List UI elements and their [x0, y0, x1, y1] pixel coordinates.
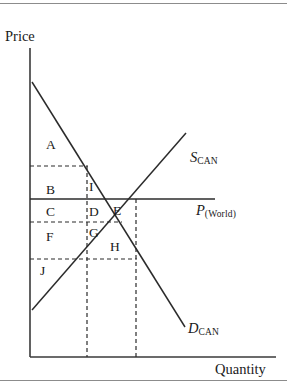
demand-subscript: CAN [198, 327, 219, 337]
x-axis-label: Quantity [215, 362, 266, 377]
world-price-label: P(World) [196, 203, 236, 218]
supply-curve-label: SCAN [190, 150, 218, 165]
region-g-label: G [89, 226, 99, 240]
region-a-label: A [46, 138, 56, 152]
region-e-label: E [113, 204, 121, 218]
region-i-label: I [89, 180, 94, 194]
world-price-symbol: P [196, 202, 205, 218]
world-price-subscript: (World) [205, 209, 236, 219]
region-h-label: H [110, 240, 120, 254]
region-j-label: J [40, 264, 45, 278]
region-c-label: C [46, 205, 55, 219]
plot-canvas [0, 0, 287, 388]
region-d-label: D [89, 205, 99, 219]
demand-symbol: D [188, 320, 198, 336]
supply-subscript: CAN [197, 156, 218, 166]
supply-demand-figure: Price Quantity SCAN DCAN P(World) ABCDEF… [0, 0, 287, 388]
region-b-label: B [46, 183, 55, 197]
y-axis-label: Price [5, 29, 35, 44]
region-f-label: F [46, 230, 54, 244]
demand-curve-label: DCAN [188, 321, 219, 336]
